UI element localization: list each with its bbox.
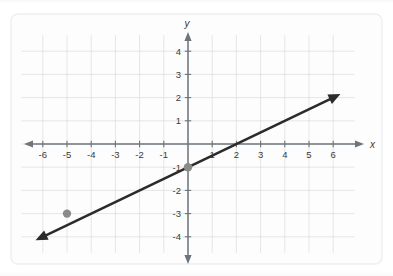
coordinate-plane-svg: -6-5-4-3-2-11234564321-1-2-3-4 x y — [0, 0, 393, 276]
y-tick-label: 4 — [176, 46, 181, 57]
y-tick-label: -2 — [173, 185, 181, 196]
y-tick-label: -3 — [173, 208, 181, 219]
x-tick-label: 2 — [234, 149, 239, 160]
x-tick-label: -3 — [111, 149, 119, 160]
x-tick-label: -1 — [160, 149, 168, 160]
x-tick-label: 3 — [258, 149, 263, 160]
point-b — [184, 163, 192, 171]
x-tick-label: 5 — [306, 149, 311, 160]
graph-figure: -6-5-4-3-2-11234564321-1-2-3-4 x y — [0, 0, 393, 276]
y-tick-label: -4 — [173, 231, 181, 242]
x-tick-label: 6 — [331, 149, 336, 160]
y-tick-label: 3 — [176, 69, 181, 80]
x-tick-label: -5 — [63, 149, 71, 160]
y-axis-label: y — [184, 18, 191, 29]
x-tick-label: -4 — [87, 149, 95, 160]
y-tick-label: 2 — [176, 92, 181, 103]
point-a — [63, 209, 71, 217]
x-tick-label: -2 — [135, 149, 143, 160]
y-tick-label: 1 — [176, 115, 181, 126]
x-axis-label: x — [369, 139, 376, 150]
x-tick-label: -6 — [39, 149, 47, 160]
x-tick-label: 4 — [282, 149, 287, 160]
